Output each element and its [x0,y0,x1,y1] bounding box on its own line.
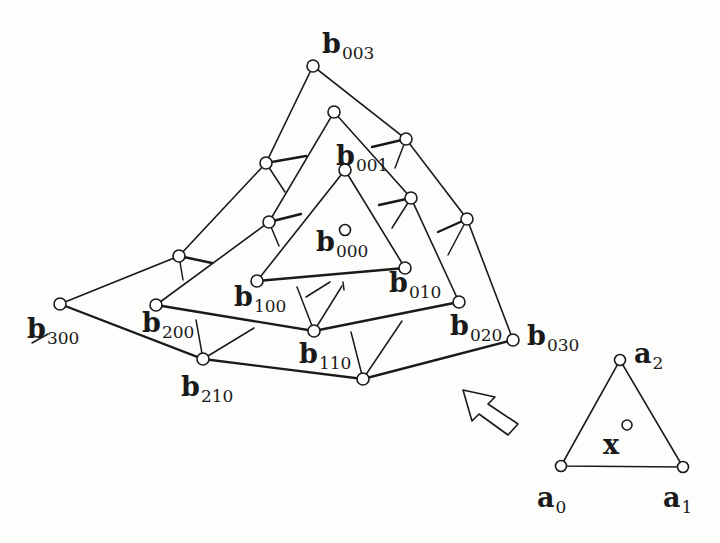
node-b003 [307,60,319,72]
label-base: a [634,338,652,369]
label-a2: a2 [634,340,663,367]
label-b200: b200 [142,309,194,336]
label-base: b [450,310,469,341]
label-subscript: 2 [653,353,664,373]
node-a2 [615,355,626,366]
node-b210 [197,353,209,365]
label-subscript: 010 [409,282,441,302]
node-unlabeled [328,106,340,118]
label-b210: b210 [181,373,233,400]
node-b110 [308,325,320,337]
label-base: b [322,28,341,59]
label-base: x [603,429,619,460]
label-base: b [181,371,200,402]
connector-ticks [32,139,467,379]
label-base: b [316,226,335,257]
label-b010: b010 [389,269,441,296]
node-b020 [453,296,465,308]
bezier-triangle-diagram [0,0,720,543]
outer-net-edges [60,66,513,379]
label-subscript: 210 [201,386,233,406]
node-unlabeled [260,157,272,169]
node-unlabeled [405,192,417,204]
label-base: a [537,482,555,513]
label-base: b [389,267,408,298]
label-b000: b000 [316,228,368,255]
label-base: b [142,307,161,338]
label-a0: a0 [537,484,566,511]
label-subscript: 200 [162,322,194,342]
node-b030 [507,334,519,346]
node-a1 [678,462,689,473]
node-unlabeled [263,216,275,228]
label-b100: b100 [234,283,286,310]
label-subscript: 020 [470,325,502,345]
node-unlabeled [173,250,185,262]
label-subscript: 0 [556,497,567,517]
label-b001: b001 [336,142,388,169]
label-subscript: 001 [356,155,388,175]
label-subscript: 100 [254,296,286,316]
label-subscript: 110 [319,353,351,373]
label-b300: b300 [27,315,79,342]
node-unlabeled [357,373,369,385]
label-base: b [527,320,546,351]
label-base: b [234,281,253,312]
label-b030: b030 [527,322,579,349]
label-base: b [27,313,46,344]
label-x: x [603,431,619,458]
label-base: a [663,482,681,513]
label-base: b [336,140,355,171]
label-subscript: 000 [336,241,368,261]
arrow-icon [463,390,518,435]
label-b110: b110 [299,340,351,367]
control-points [54,60,689,473]
node-unlabeled [461,213,473,225]
label-base: b [299,338,318,369]
label-subscript: 1 [682,497,693,517]
label-b003: b003 [322,30,374,57]
node-b300 [54,298,66,310]
label-subscript: 003 [342,43,374,63]
label-a1: a1 [663,484,692,511]
label-subscript: 300 [47,328,79,348]
domain-triangle [561,360,683,467]
node-x [622,420,632,430]
label-b020: b020 [450,312,502,339]
label-subscript: 030 [547,335,579,355]
node-unlabeled [400,133,412,145]
node-a0 [556,461,567,472]
